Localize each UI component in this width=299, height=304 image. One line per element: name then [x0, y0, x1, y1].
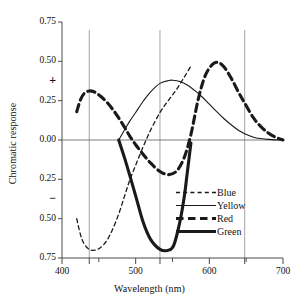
y-tick-label: 0.50	[22, 55, 56, 65]
y-tick-label: 0.25	[22, 95, 56, 105]
legend-label: Yellow	[216, 200, 245, 211]
x-tick-label: 400	[45, 266, 79, 276]
y-tick-label: 0.75	[22, 16, 56, 26]
chromatic-response-chart: Chromatic response Wavelength (nm) 0.750…	[0, 0, 299, 304]
y-tick-label: 0.25	[22, 173, 56, 183]
x-tick-label: 600	[192, 266, 226, 276]
chart-legend: BlueYellowRedGreen	[176, 186, 272, 238]
x-tick-label: 700	[266, 266, 299, 276]
x-axis-title: Wavelength (nm)	[0, 283, 299, 294]
legend-label: Red	[216, 213, 233, 224]
legend-item: Yellow	[176, 199, 272, 212]
y-tick-label: 0.00	[22, 134, 56, 144]
y-tick-label: 0.75	[22, 252, 56, 262]
positive-sign-label: +	[22, 73, 56, 88]
series-line-blue	[77, 66, 191, 250]
y-axis-title: Chromatic response	[7, 64, 18, 224]
y-tick-label: 0.50	[22, 213, 56, 223]
legend-swatch-blue	[176, 187, 216, 198]
legend-item: Blue	[176, 186, 272, 199]
legend-swatch-green	[176, 226, 216, 237]
negative-sign-label: −	[22, 191, 56, 206]
x-tick-label: 500	[119, 266, 153, 276]
series-line-red	[77, 62, 283, 174]
legend-label: Green	[216, 226, 241, 237]
legend-swatch-red	[176, 213, 216, 224]
legend-item: Red	[176, 212, 272, 225]
legend-item: Green	[176, 225, 272, 238]
legend-label: Blue	[216, 187, 236, 198]
legend-swatch-yellow	[176, 200, 216, 211]
